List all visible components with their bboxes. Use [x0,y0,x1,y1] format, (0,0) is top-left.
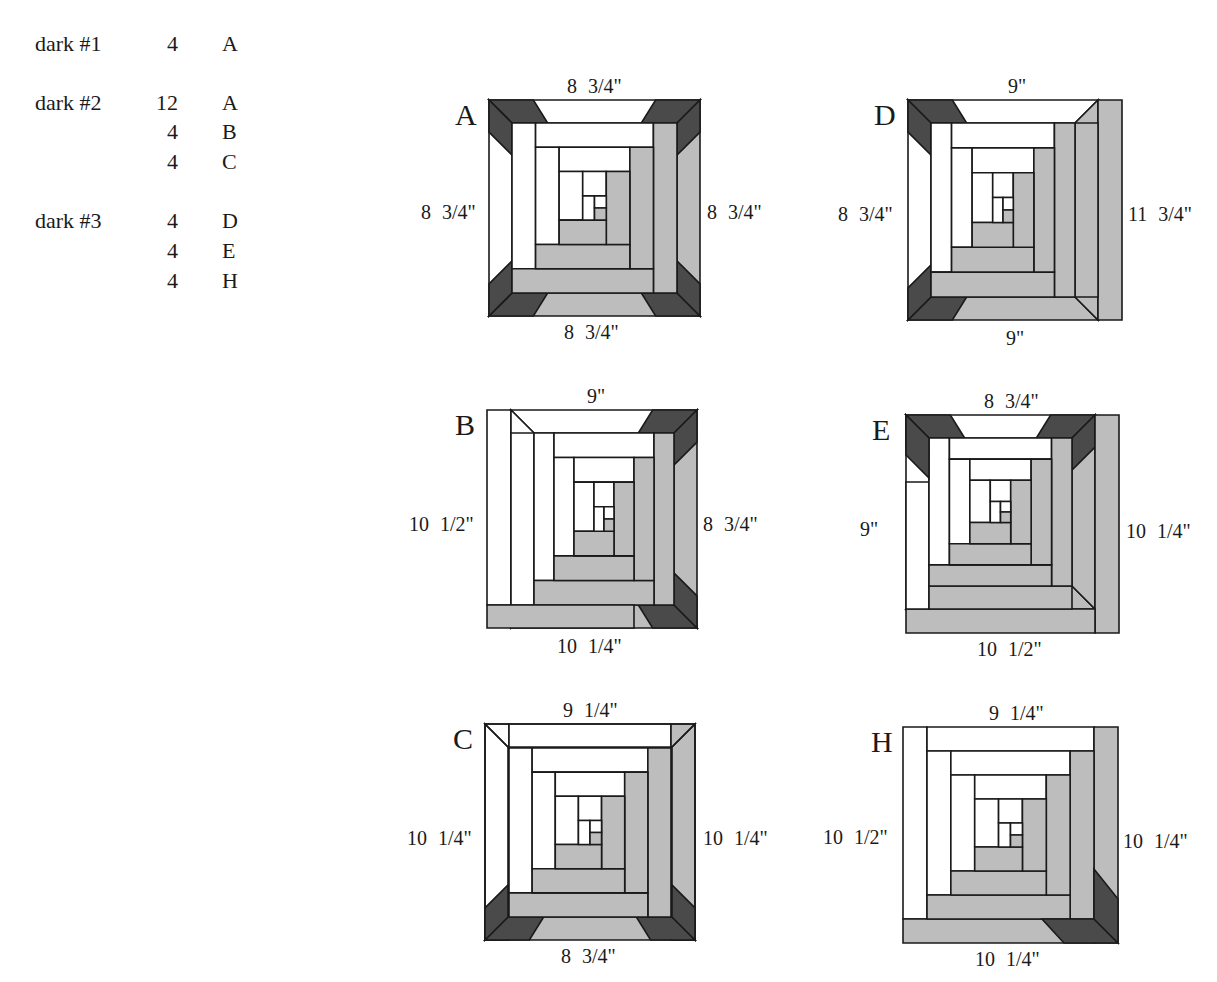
gray-log [536,244,630,268]
gray-log [1046,775,1070,895]
white-log [906,482,929,609]
white-log [931,123,952,272]
white-log [949,438,1051,459]
dimension-left: 8 3/4" [421,202,476,222]
log-cabin-diagram [906,415,1119,633]
dimension-top: 8 3/4" [984,391,1039,411]
block-letter: D [222,210,238,232]
dimension-right: 10 1/4" [1123,831,1188,851]
dimension-right: 8 3/4" [703,514,758,534]
log-cabin-diagram [487,410,697,628]
white-log [574,458,634,483]
white-log [972,173,993,223]
gray-log [487,605,634,628]
block-label: D [874,100,896,130]
quantity: 4 [138,151,178,173]
white-log [951,751,1070,775]
block-letter: E [222,240,235,262]
white-log [555,772,624,796]
block-letter: H [222,270,238,292]
quilt-block-b: B 9" 10 1/2" 8 3/4" 10 1/4" [487,410,697,628]
gray-log [1011,480,1031,543]
white-log [970,480,990,522]
dimension-bottom: 10 1/4" [975,949,1040,969]
gray-log [574,531,614,556]
center-white [999,823,1011,847]
gray-log [1052,438,1072,586]
dimension-bottom: 10 1/2" [977,639,1042,659]
white-log [536,147,560,244]
white-log [511,433,534,605]
white-log [970,459,1031,480]
white-log [999,799,1023,823]
gray-log [559,220,606,244]
white-log [555,796,578,844]
dimension-top: 9" [587,386,605,406]
gray-log [653,123,677,293]
block-label: H [871,727,893,757]
white-log [578,796,601,820]
gray-log [1034,148,1055,272]
white-log [574,482,594,531]
white-log [952,123,1055,148]
gray-log [1075,123,1098,297]
block-letter: C [222,151,237,173]
gray-log [1098,100,1122,320]
dimension-right: 10 1/4" [703,828,768,848]
white-log [972,148,1034,173]
white-log [975,775,1047,799]
white-log [993,173,1014,198]
gray-log [906,609,1095,633]
dimension-top: 9 1/4" [563,700,618,720]
gray-log [648,748,671,917]
gray-log [949,544,1031,565]
gray-log [1070,751,1094,919]
gray-log [1095,415,1119,633]
center-gray [604,519,614,531]
white-log [927,727,1094,751]
center-white [594,507,604,532]
gray-log [927,895,1070,919]
center-white [993,198,1003,223]
dimension-left: 8 3/4" [838,204,893,224]
center-gray [1001,512,1011,523]
white-log [554,458,574,556]
center-gray [595,208,607,220]
white-log [594,482,614,507]
center-white [1003,198,1013,210]
white-log [512,123,536,269]
log-cabin-diagram [485,724,695,940]
block-label: B [455,410,475,440]
dimension-left: 10 1/2" [409,514,474,534]
dimension-right: 11 3/4" [1128,204,1192,224]
white-log [509,748,532,893]
block-letter: A [222,33,238,55]
quantity: 12 [138,92,178,114]
block-letter: B [222,121,237,143]
white-log [951,775,975,871]
gray-log [1022,799,1046,871]
dimension-bottom: 10 1/4" [557,636,622,656]
quantity: 4 [138,240,178,262]
white-log [990,480,1010,501]
gray-log [654,433,674,605]
center-gray [1003,210,1013,222]
gray-log [554,556,634,581]
gray-log [931,272,1054,297]
center-gray [590,833,602,845]
gray-log [952,247,1034,272]
gray-log [512,269,653,293]
dimension-bottom: 8 3/4" [561,946,616,966]
gray-log [975,847,1023,871]
quantity: 4 [138,121,178,143]
gray-log [555,845,601,869]
log-cabin-diagram [489,100,700,316]
center-white [595,196,607,208]
dimension-bottom: 9" [1006,328,1024,348]
white-log [559,147,630,171]
dimension-right: 10 1/4" [1126,521,1191,541]
dimension-right: 8 3/4" [707,202,762,222]
gray-log [951,871,1046,895]
log-cabin-diagram [908,100,1122,320]
dimension-left: 10 1/4" [407,828,472,848]
